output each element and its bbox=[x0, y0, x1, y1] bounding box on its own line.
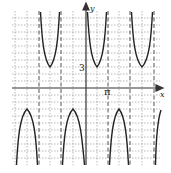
trig-graph: y x 3 π bbox=[0, 0, 171, 173]
x-axis-label: x bbox=[160, 90, 165, 99]
y-axis-arrow-icon bbox=[83, 3, 89, 10]
y-tick-3-label: 3 bbox=[79, 63, 85, 73]
x-tick-pi-label: π bbox=[104, 86, 111, 97]
y-axis-label: y bbox=[89, 4, 95, 13]
axes bbox=[12, 3, 163, 165]
